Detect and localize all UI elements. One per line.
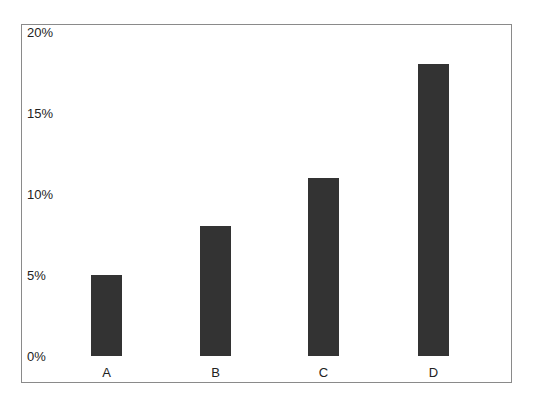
bar-a (91, 275, 122, 356)
x-tick-label: A (91, 366, 122, 380)
bar-d (418, 64, 449, 356)
x-tick-label: D (418, 366, 449, 380)
bar-b (200, 226, 231, 356)
y-tick-label: 0% (27, 350, 46, 364)
y-tick-label: 15% (27, 107, 53, 121)
bar-c (308, 178, 339, 356)
x-tick-label: C (308, 366, 339, 380)
y-tick-label: 5% (27, 269, 46, 283)
y-tick-label: 10% (27, 188, 53, 202)
x-tick-label: B (200, 366, 231, 380)
y-tick-label: 20% (27, 26, 53, 40)
